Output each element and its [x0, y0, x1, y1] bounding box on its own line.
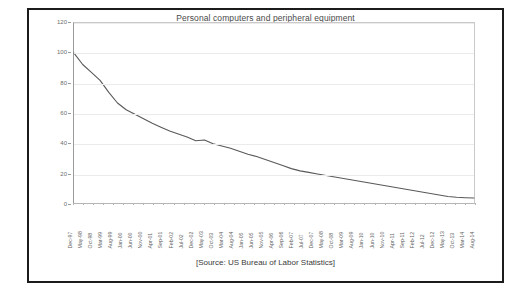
x-axis-tick-label: Jan-05	[238, 232, 243, 248]
x-axis-tick-mark	[83, 203, 84, 205]
x-axis-tick-mark	[184, 203, 185, 205]
x-axis-tick-mark	[375, 203, 376, 205]
x-axis-tick-label: Jul-02	[178, 234, 183, 248]
x-axis-tick-mark	[395, 203, 396, 205]
y-axis-tick-mark	[68, 113, 71, 114]
x-axis-tick-mark	[445, 203, 446, 205]
x-axis-tick-mark	[73, 203, 74, 205]
x-axis-tick-mark	[254, 203, 255, 205]
x-axis: Dec-97May-98Oct-98Mar-99Aug-99Jan-00Jun-…	[73, 206, 475, 248]
x-axis-tick-label: Dec-12	[429, 231, 434, 248]
y-axis-tick-label: 40	[60, 140, 67, 146]
x-axis-tick-label: Jun-00	[128, 232, 133, 248]
x-axis-tick-mark	[425, 203, 426, 205]
figure-frame: Personal computers and peripheral equipm…	[27, 8, 504, 283]
x-axis-tick-label: Jan-10	[359, 232, 364, 248]
x-axis-tick-mark	[465, 203, 466, 205]
x-axis-tick-label: Oct-08	[329, 232, 334, 248]
x-axis-tick-label: Nov-00	[138, 231, 143, 248]
y-axis-tick-label: 20	[60, 171, 67, 177]
x-axis-tick-label: Jul-12	[419, 234, 424, 248]
x-axis-tick-label: Jun-10	[369, 232, 374, 248]
x-axis-tick-mark	[264, 203, 265, 205]
x-axis-tick-label: Feb-07	[289, 232, 294, 248]
x-axis-tick-label: Mar-04	[218, 232, 223, 248]
x-axis-tick-mark	[143, 203, 144, 205]
y-axis-tick-mark	[68, 143, 71, 144]
x-axis-tick-mark	[294, 203, 295, 205]
x-axis-tick-label: May-13	[439, 231, 444, 248]
x-axis-tick-label: Apr-01	[148, 232, 153, 248]
x-axis-tick-mark	[455, 203, 456, 205]
y-axis-tick-label: 0	[64, 201, 67, 207]
x-axis-tick-label: Nov-10	[379, 231, 384, 248]
y-axis-tick-mark	[68, 174, 71, 175]
x-axis-tick-mark	[244, 203, 245, 205]
x-axis-tick-label: Mar-14	[460, 232, 465, 248]
plot-area	[73, 22, 475, 204]
x-axis-tick-mark	[93, 203, 94, 205]
x-axis-tick-mark	[163, 203, 164, 205]
y-axis-tick-label: 60	[60, 110, 67, 116]
x-axis-tick-label: Sep-01	[158, 231, 163, 248]
x-axis-tick-mark	[224, 203, 225, 205]
x-axis-tick-label: May-98	[78, 231, 83, 248]
x-axis-tick-label: Dec-07	[309, 231, 314, 248]
x-axis-tick-mark	[475, 203, 476, 205]
x-axis-tick-mark	[133, 203, 134, 205]
gridline	[74, 175, 474, 176]
x-axis-tick-label: Oct-03	[208, 232, 213, 248]
x-axis-tick-mark	[304, 203, 305, 205]
y-axis-tick-label: 100	[57, 49, 67, 55]
x-axis-tick-label: Dec-97	[68, 231, 73, 248]
x-axis-tick-label: Feb-02	[168, 232, 173, 248]
x-axis-tick-mark	[234, 203, 235, 205]
x-axis-tick-label: Aug-09	[349, 231, 354, 248]
x-axis-tick-label: Apr-06	[269, 232, 274, 248]
x-axis-tick-mark	[435, 203, 436, 205]
gridline	[74, 23, 474, 24]
y-axis-tick-mark	[68, 83, 71, 84]
x-axis-tick-mark	[103, 203, 104, 205]
x-axis-tick-label: Jan-00	[118, 232, 123, 248]
y-axis: 020406080100120	[29, 22, 71, 204]
x-axis-tick-mark	[324, 203, 325, 205]
x-axis-tick-mark	[214, 203, 215, 205]
x-axis-tick-mark	[153, 203, 154, 205]
x-axis-tick-mark	[334, 203, 335, 205]
x-axis-tick-label: Aug-04	[228, 231, 233, 248]
screenshot-canvas: Personal computers and peripheral equipm…	[0, 0, 531, 300]
x-axis-tick-label: May-08	[319, 231, 324, 248]
x-axis-tick-label: Nov-05	[259, 231, 264, 248]
x-axis-tick-label: Dec-02	[188, 231, 193, 248]
x-axis-tick-mark	[274, 203, 275, 205]
x-axis-tick-label: Jun-05	[248, 232, 253, 248]
source-note: [Source: US Bureau of Labor Statistics]	[29, 258, 502, 267]
x-axis-tick-label: Aug-99	[108, 231, 113, 248]
x-axis-tick-mark	[194, 203, 195, 205]
gridline	[74, 84, 474, 85]
y-axis-tick-mark	[68, 22, 71, 23]
x-axis-tick-label: May-03	[198, 231, 203, 248]
x-axis-tick-mark	[415, 203, 416, 205]
x-axis-tick-label: Oct-13	[449, 232, 454, 248]
x-axis-tick-mark	[405, 203, 406, 205]
x-axis-tick-mark	[204, 203, 205, 205]
series-polyline	[74, 53, 474, 198]
y-axis-tick-mark	[68, 204, 71, 205]
gridline	[74, 144, 474, 145]
gridline	[74, 114, 474, 115]
x-axis-tick-mark	[174, 203, 175, 205]
x-axis-tick-label: Oct-98	[88, 232, 93, 248]
y-axis-tick-mark	[68, 52, 71, 53]
x-axis-tick-label: Jul-07	[299, 234, 304, 248]
x-axis-tick-label: Mar-99	[98, 232, 103, 248]
gridline	[74, 53, 474, 54]
x-axis-tick-label: Sep-11	[399, 232, 404, 248]
x-axis-tick-mark	[314, 203, 315, 205]
figure-inner: Personal computers and peripheral equipm…	[29, 10, 502, 281]
x-axis-tick-label: Feb-12	[409, 232, 414, 248]
x-axis-tick-label: Apr-11	[389, 233, 394, 248]
x-axis-tick-mark	[113, 203, 114, 205]
y-axis-tick-label: 120	[57, 19, 67, 25]
